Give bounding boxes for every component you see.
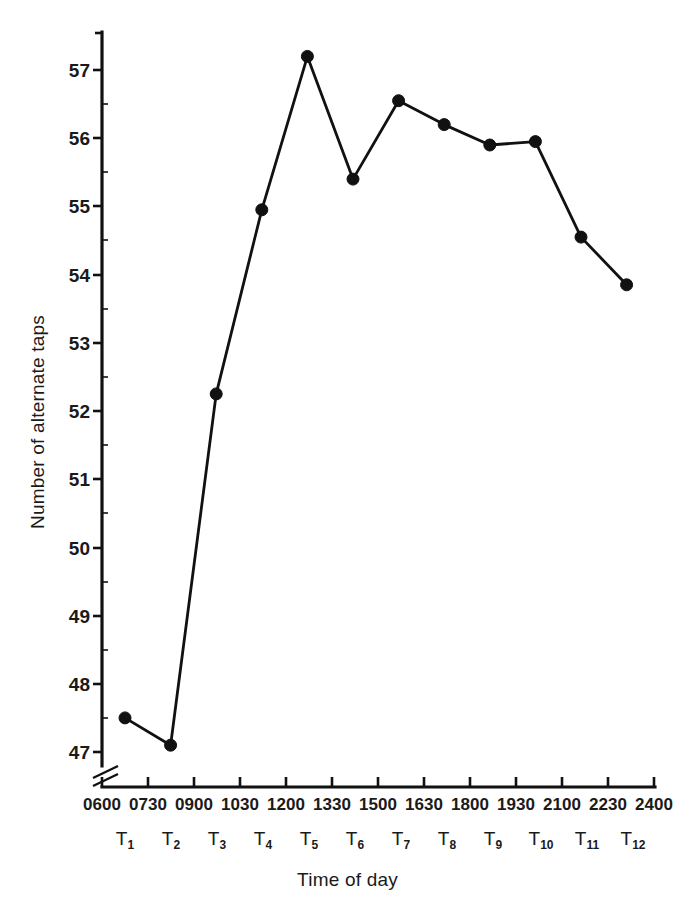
data-point-T7 (393, 95, 405, 107)
axis-break-icon (93, 766, 118, 786)
data-point-T8 (438, 119, 450, 131)
line-chart-figure: Number of alternate taps Time of day 57 … (0, 0, 695, 910)
data-point-T12 (621, 279, 633, 291)
data-series-line (125, 56, 627, 745)
data-point-T5 (301, 50, 313, 62)
data-point-T11 (575, 231, 587, 243)
data-point-T10 (529, 136, 541, 148)
data-point-T2 (165, 739, 177, 751)
data-point-T4 (256, 204, 268, 216)
data-point-markers (119, 50, 633, 751)
data-point-T6 (347, 173, 359, 185)
data-point-T1 (119, 712, 131, 724)
data-point-T3 (210, 388, 222, 400)
data-point-T9 (484, 139, 496, 151)
plot-area (0, 0, 695, 910)
